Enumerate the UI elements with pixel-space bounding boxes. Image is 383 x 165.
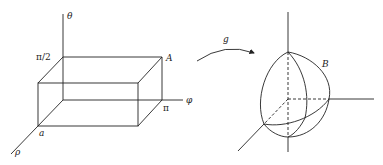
box-edge-bottom-right: [138, 100, 162, 126]
pi-tick-label: π: [163, 103, 169, 113]
box-front-face: [38, 83, 138, 126]
rho-axis: [11, 100, 63, 154]
diagram-canvas: θ φ ρ π/2 π a A g B: [0, 0, 383, 165]
inner-meridian-curve: [288, 52, 307, 137]
box-edge-top-right: [138, 57, 162, 83]
curved-arrow-icon: [197, 49, 254, 61]
mapping-arrow: g: [197, 34, 254, 61]
right-figure-region: B: [238, 12, 374, 152]
region-B-label: B: [321, 59, 329, 69]
outer-left-curve: [260, 52, 288, 124]
mapping-g-label: g: [223, 34, 229, 44]
pi-half-tick-label: π/2: [36, 52, 51, 62]
inner-equator-curve: [264, 99, 329, 125]
bottom-right-curve: [288, 99, 329, 137]
diagonal-axis-front: [238, 124, 264, 151]
theta-axis-label: θ: [67, 11, 73, 21]
phi-axis-label: φ: [186, 95, 193, 105]
rho-axis-label: ρ: [14, 147, 21, 157]
left-figure-box: θ φ ρ π/2 π a A: [11, 11, 193, 157]
a-tick-label: a: [39, 128, 44, 138]
corner-A-label: A: [165, 53, 173, 63]
diagonal-axis-hidden: [264, 99, 288, 124]
bottom-left-curve: [264, 124, 288, 137]
